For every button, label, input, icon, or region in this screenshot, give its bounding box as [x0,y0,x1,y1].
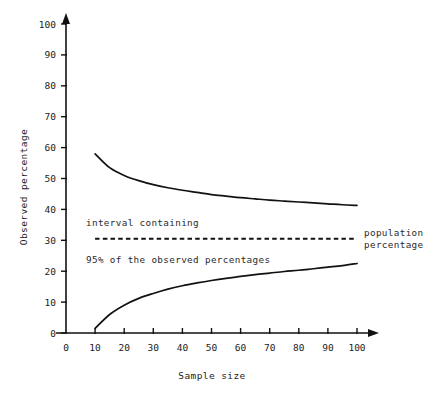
x-axis-tick-label: 60 [235,342,247,353]
x-axis-title: Sample size [178,370,245,381]
y-axis-tick-label: 90 [45,49,57,60]
x-axis-tick-label: 20 [118,342,130,353]
x-axis-tick-label: 0 [63,342,69,353]
x-axis-tick-label: 100 [348,342,365,353]
y-axis-tick-label: 100 [39,19,56,30]
annotation-population-label-line1: population [364,227,423,238]
x-axis-tick-label: 40 [177,342,189,353]
y-axis-tick-label: 20 [45,266,57,277]
chart-background [0,0,431,395]
x-axis-tick-label: 30 [148,342,160,353]
y-axis-tick-label: 70 [45,111,57,122]
y-axis-tick-label: 60 [45,142,57,153]
annotation-interval-containing: interval containing [86,217,199,228]
x-axis-tick-label: 90 [322,342,334,353]
observed-percentage-chart: 0102030405060708090100 Observed percenta… [0,0,431,395]
chart-figure: 0102030405060708090100 Observed percenta… [0,0,431,395]
x-axis-tick-label: 70 [264,342,276,353]
y-axis-tick-label: 40 [45,204,57,215]
annotation-95-percent-observed: 95% of the observed percentages [86,254,270,265]
y-axis-tick-label: 50 [45,173,57,184]
x-axis-tick-label: 80 [293,342,305,353]
x-axis-tick-label: 50 [206,342,218,353]
annotation-population-label-line2: percentage [364,239,424,250]
y-axis-title: Observed percentage [18,129,29,245]
y-axis-tick-label: 80 [45,80,57,91]
y-axis-tick-label: 30 [45,235,57,246]
x-axis-tick-label: 10 [89,342,101,353]
y-axis-tick-label: 10 [45,297,57,308]
y-axis-tick-label: 0 [50,328,56,339]
